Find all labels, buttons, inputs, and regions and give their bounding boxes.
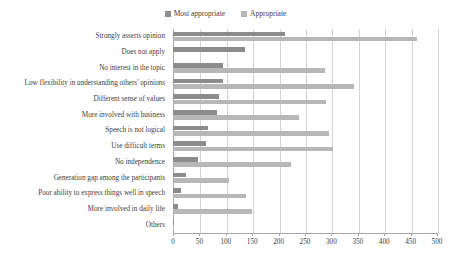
bar-group [173,139,437,155]
x-axis-tick [411,233,412,236]
x-axis-tick [252,233,253,236]
x-axis-tick [199,233,200,236]
legend-swatch-appropriate [241,11,247,17]
x-axis-tick [358,233,359,236]
bar-appropriate [173,84,354,89]
bar-group [173,29,437,45]
bar-appropriate [173,131,329,136]
bar-series-container [173,29,437,233]
bar-most-appropriate [173,126,208,131]
bar-most-appropriate [173,94,219,99]
legend-entry-appropriate: Appropriate [241,9,286,18]
bar-appropriate [173,115,299,120]
bar-group [173,155,437,171]
category-label: No interest in the topic [0,60,169,76]
bar-most-appropriate [173,79,223,84]
category-label: Use difficult terms [0,139,169,155]
category-label: Different sense of values [0,92,169,108]
category-label: Speech is not logical [0,123,169,139]
x-axis-tick-label: 350 [352,238,363,247]
category-label: Poor ability to express things well in s… [0,186,169,202]
bar-group [173,76,437,92]
bar-most-appropriate [173,173,186,178]
x-axis-tick-label: 250 [300,238,311,247]
category-label: Generation gap among the participants [0,170,169,186]
category-label: Strongly asserts opinion [0,29,169,45]
bar-appropriate [173,194,246,199]
x-axis-tick-label: 50 [196,238,203,247]
bar-group [173,60,437,76]
x-axis-tick-label: 0 [171,238,175,247]
x-axis-tick-label: 400 [379,238,390,247]
x-axis-tick-label: 200 [273,238,284,247]
bar-most-appropriate [173,157,198,162]
x-axis-tick [384,233,385,236]
x-axis-tick [437,233,438,236]
category-label: Others [0,217,169,233]
bar-group [173,92,437,108]
chart-legend: Most appropriate Appropriate [0,9,451,18]
x-axis-tick [279,233,280,236]
bar-group [173,123,437,139]
bar-appropriate [173,178,229,183]
legend-entry-most-appropriate: Most appropriate [165,9,225,18]
bar-group [173,170,437,186]
bar-appropriate [173,147,333,152]
x-axis-tick-label: 100 [220,238,231,247]
category-label: More involved with business [0,107,169,123]
bar-most-appropriate [173,204,178,209]
x-axis-tick [173,233,174,236]
category-label: No independence [0,155,169,171]
bar-appropriate [173,162,291,167]
gridline [438,29,439,233]
bar-group [173,107,437,123]
bar-group [173,202,437,218]
bar-most-appropriate [173,63,223,68]
bar-most-appropriate [173,220,174,225]
x-axis-tick-label: 300 [326,238,337,247]
legend-swatch-most-appropriate [165,11,171,17]
bar-group [173,217,437,233]
legend-label-most-appropriate: Most appropriate [174,9,225,18]
category-label: Low flexibility in understanding others'… [0,76,169,92]
bar-appropriate [173,68,325,73]
bar-most-appropriate [173,110,217,115]
bar-most-appropriate [173,32,285,37]
x-axis-tick-label: 500 [432,238,443,247]
bar-appropriate [173,209,252,214]
category-label: More involved in daily life [0,202,169,218]
category-axis-labels: Strongly asserts opinionDoes not applyNo… [0,29,169,233]
x-axis-tick [226,233,227,236]
x-axis-tick-label: 450 [405,238,416,247]
category-label: Does not apply [0,45,169,61]
x-axis-tick-label: 150 [247,238,258,247]
bar-appropriate [173,37,417,42]
legend-label-appropriate: Appropriate [250,9,286,18]
bar-chart: Most appropriate Appropriate Strongly as… [0,0,451,259]
bar-most-appropriate [173,141,206,146]
bar-most-appropriate [173,188,181,193]
bar-group [173,45,437,61]
x-axis-tick [331,233,332,236]
bar-appropriate [173,225,174,230]
bar-appropriate [173,100,326,105]
bar-most-appropriate [173,47,245,52]
bar-group [173,186,437,202]
x-axis-tick [305,233,306,236]
